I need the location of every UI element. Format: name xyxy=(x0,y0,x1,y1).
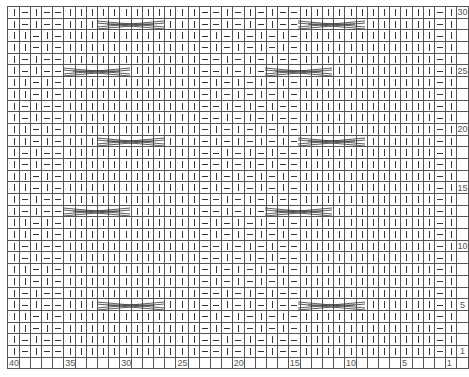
chart-row-7 xyxy=(8,275,469,287)
knit-stitch xyxy=(390,88,401,100)
knit-stitch xyxy=(423,65,434,77)
column-number-label: 5 xyxy=(401,357,413,369)
knit-stitch xyxy=(379,217,390,229)
chart-row-19 xyxy=(8,135,469,147)
knit-stitch xyxy=(20,229,31,241)
knit-stitch xyxy=(120,264,132,276)
knit-stitch xyxy=(300,123,311,135)
knit-stitch xyxy=(176,240,188,252)
knit-stitch xyxy=(311,217,322,229)
knit-stitch xyxy=(300,42,311,54)
knit-stitch xyxy=(165,287,176,299)
purl-stitch xyxy=(210,299,221,311)
knit-stitch xyxy=(266,147,277,159)
purl-stitch xyxy=(288,135,300,147)
knit-stitch xyxy=(154,53,165,65)
column-number-label xyxy=(165,357,176,369)
knit-stitch xyxy=(165,158,176,170)
knit-stitch xyxy=(8,334,20,346)
knit-stitch xyxy=(165,65,176,77)
chart-row-25: 25 xyxy=(8,65,469,77)
knit-stitch xyxy=(368,287,379,299)
knit-stitch xyxy=(42,42,53,54)
purl-stitch xyxy=(210,65,221,77)
purl-stitch xyxy=(199,275,210,287)
knit-stitch xyxy=(412,112,423,124)
purl-stitch xyxy=(288,299,300,311)
purl-stitch xyxy=(221,275,232,287)
knit-stitch xyxy=(244,287,255,299)
knit-stitch xyxy=(120,53,132,65)
knit-stitch xyxy=(210,135,221,147)
purl-stitch xyxy=(288,18,300,30)
purl-stitch xyxy=(221,182,232,194)
purl-stitch xyxy=(31,135,42,147)
purl-stitch xyxy=(255,18,266,30)
knit-stitch xyxy=(255,264,266,276)
knit-stitch xyxy=(344,205,356,217)
knit-stitch xyxy=(344,345,356,357)
knit-stitch xyxy=(368,345,379,357)
knit-stitch xyxy=(344,229,356,241)
knit-stitch xyxy=(232,88,244,100)
knit-stitch xyxy=(176,100,188,112)
knit-stitch xyxy=(401,30,413,42)
row-number-label xyxy=(457,252,469,264)
purl-stitch xyxy=(53,147,64,159)
knit-stitch xyxy=(64,334,76,346)
knit-stitch xyxy=(311,275,322,287)
knit-stitch xyxy=(132,53,143,65)
knit-stitch xyxy=(42,275,53,287)
row-number-label xyxy=(457,170,469,182)
knit-stitch xyxy=(87,100,98,112)
cable-stitch xyxy=(120,65,132,77)
knit-stitch xyxy=(109,88,120,100)
knit-stitch xyxy=(20,322,31,334)
purl-stitch xyxy=(434,275,445,287)
knit-stitch xyxy=(8,229,20,241)
knit-stitch xyxy=(423,334,434,346)
purl-stitch xyxy=(210,112,221,124)
knit-stitch xyxy=(143,123,154,135)
knit-stitch xyxy=(255,275,266,287)
knit-stitch xyxy=(401,123,413,135)
purl-stitch xyxy=(199,7,210,19)
knit-stitch xyxy=(154,287,165,299)
cable-stitch xyxy=(333,299,344,311)
cable-stitch xyxy=(333,18,344,30)
knit-stitch xyxy=(379,18,390,30)
cable-stitch xyxy=(120,135,132,147)
knit-stitch xyxy=(390,100,401,112)
knit-stitch xyxy=(300,53,311,65)
knit-stitch xyxy=(154,264,165,276)
purl-stitch xyxy=(53,287,64,299)
knit-stitch xyxy=(20,123,31,135)
purl-stitch xyxy=(288,158,300,170)
purl-stitch xyxy=(244,135,255,147)
knit-stitch xyxy=(412,345,423,357)
knit-stitch xyxy=(333,194,344,206)
knit-stitch xyxy=(445,264,457,276)
purl-stitch xyxy=(255,334,266,346)
knit-stitch xyxy=(379,299,390,311)
knit-stitch xyxy=(401,147,413,159)
purl-stitch xyxy=(288,100,300,112)
knit-stitch xyxy=(423,158,434,170)
knit-stitch xyxy=(344,310,356,322)
knit-stitch xyxy=(390,217,401,229)
column-number-label xyxy=(20,357,31,369)
cable-stitch xyxy=(333,135,344,147)
knit-stitch xyxy=(143,88,154,100)
knit-stitch xyxy=(8,88,20,100)
purl-stitch xyxy=(199,123,210,135)
cable-stitch xyxy=(300,65,311,77)
purl-stitch xyxy=(221,135,232,147)
knit-stitch xyxy=(31,18,42,30)
purl-stitch xyxy=(232,299,244,311)
knit-stitch xyxy=(390,30,401,42)
knit-stitch xyxy=(401,77,413,89)
purl-stitch xyxy=(221,217,232,229)
knit-stitch xyxy=(266,252,277,264)
knit-stitch xyxy=(333,205,344,217)
purl-stitch xyxy=(199,217,210,229)
